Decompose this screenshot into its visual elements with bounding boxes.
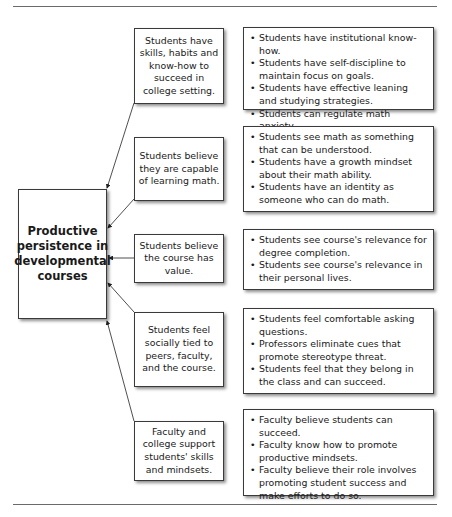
- detail-item: Faculty believe students can succeed.: [250, 414, 427, 439]
- detail-item: Students have effective leaning and stud…: [250, 82, 427, 107]
- detail-item: Students have an identity as someone who…: [250, 181, 427, 206]
- detail-item: Students have self-discipline to maintai…: [250, 57, 427, 82]
- detail-item: Students feel comfortable asking questio…: [250, 313, 427, 338]
- top-rule: [13, 6, 437, 7]
- detail-box-3: Students see course's relevance for degr…: [243, 229, 434, 290]
- detail-item: Students see course's relevance in their…: [250, 259, 427, 284]
- factor-node-2: Students believe they are capable of lea…: [134, 137, 224, 201]
- detail-item: Students have institutional know-how.: [250, 32, 427, 57]
- arrow-factor-2: [108, 199, 134, 228]
- factor-label: Students have skills, habits and know-ho…: [138, 35, 220, 98]
- detail-item: Students see math as something that can …: [250, 131, 427, 156]
- arrow-factor-5: [107, 321, 134, 421]
- factor-label: Students believe they are capable of lea…: [138, 150, 220, 188]
- detail-item: Professors eliminate cues that promote s…: [250, 338, 427, 363]
- detail-item: Faculty know how to promote productive m…: [250, 439, 427, 464]
- factor-node-3: Students believe the course has value.: [134, 234, 224, 283]
- factor-node-5: Faculty and college support students' sk…: [134, 421, 224, 481]
- bottom-rule: [13, 504, 437, 505]
- detail-box-5: Faculty believe students can succeed. Fa…: [243, 409, 434, 496]
- central-node-label: Productive persistence in developmental …: [14, 224, 111, 284]
- factor-label: Faculty and college support students' sk…: [138, 426, 220, 476]
- detail-item: Students see course's relevance for degr…: [250, 234, 427, 259]
- detail-item: Students have a growth mindset about the…: [250, 156, 427, 181]
- detail-item: Students feel that they belong in the cl…: [250, 363, 427, 388]
- detail-box-2: Students see math as something that can …: [243, 126, 434, 212]
- detail-box-1: Students have institutional know-how. St…: [243, 27, 434, 110]
- central-node: Productive persistence in developmental …: [18, 189, 107, 319]
- arrow-factor-1: [107, 103, 134, 188]
- arrow-factor-4: [108, 283, 134, 312]
- factor-label: Students feel socially tied to peers, fa…: [138, 324, 220, 374]
- detail-item: Faculty believe their role involves prom…: [250, 464, 427, 502]
- factor-label: Students believe the course has value.: [138, 240, 220, 278]
- factor-node-4: Students feel socially tied to peers, fa…: [134, 312, 224, 387]
- factor-node-1: Students have skills, habits and know-ho…: [134, 28, 224, 104]
- detail-box-4: Students feel comfortable asking questio…: [243, 308, 434, 394]
